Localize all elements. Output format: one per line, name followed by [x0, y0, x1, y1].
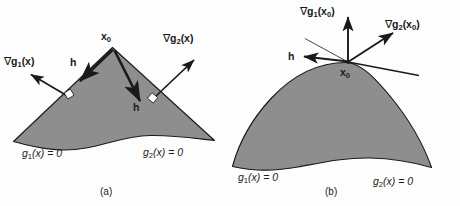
nabla-icon-g2-a: ∇: [163, 32, 170, 44]
gradient-g2-label-a: ∇g2(x): [163, 33, 193, 46]
point-label-x0-b: x0: [340, 67, 350, 80]
h-arrow-b: [304, 57, 348, 62]
nabla-icon-g2-b: ∇: [385, 18, 392, 30]
g1-arg-a: (x): [22, 55, 35, 67]
feasible-region-a: [14, 48, 215, 150]
constraint-g1-rest-a: (x) = 0: [32, 147, 62, 159]
figure-constrained-optimization: x0 ∇g1(x) ∇g2(x) h h g1(x) = 0 g2(x) = 0…: [0, 0, 460, 206]
h-interior-label-a: h: [133, 102, 139, 113]
constraint-g1-label-b: g1(x) = 0: [238, 172, 278, 185]
constraint-g1-label-a: g1(x) = 0: [22, 148, 62, 161]
gradient-g2-arrow-b: [348, 33, 393, 62]
point-x0-sub-b: 0: [346, 71, 350, 80]
point-label-x0-a: x0: [101, 31, 111, 44]
nabla-icon-g1-a: ∇: [4, 55, 11, 67]
constraint-g2-label-b: g2(x) = 0: [373, 176, 413, 189]
gradient-g1-arrow-a: [31, 75, 70, 98]
h-label-b: h: [288, 51, 294, 62]
caption-a: (a): [100, 187, 112, 197]
gradient-g2-label-b: ∇g2(x0): [385, 19, 420, 32]
g2-arg-end-b: ): [416, 18, 420, 30]
caption-b: (b): [325, 187, 337, 197]
nabla-icon-g1-b: ∇: [300, 5, 307, 17]
constraint-g2-label-a: g2(x) = 0: [143, 147, 183, 160]
g1-arg-end-b: ): [331, 5, 335, 17]
point-x0-marker-b: [346, 60, 350, 64]
gradient-g1-label-b: ∇g1(x0): [300, 6, 335, 19]
panel-b-graphics: [233, 17, 432, 170]
panel-a-graphics: [14, 48, 215, 150]
g2-arg-a: (x): [181, 32, 194, 44]
gradient-g2-arrow-a: [156, 60, 194, 96]
g1-arg-b: (x: [318, 5, 327, 17]
g2-arg-b: (x: [403, 18, 412, 30]
constraint-g2-rest-b: (x) = 0: [383, 175, 413, 187]
constraint-g2-rest-a: (x) = 0: [153, 146, 183, 158]
point-x0-sub-a: 0: [107, 35, 111, 44]
h-edge-label-a: h: [70, 57, 76, 68]
gradient-g1-label-a: ∇g1(x): [4, 56, 34, 69]
constraint-g1-rest-b: (x) = 0: [248, 171, 278, 183]
feasible-region-b: [233, 62, 432, 170]
